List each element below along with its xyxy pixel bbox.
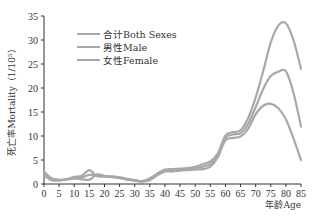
x-tick-label: 40 — [160, 188, 170, 199]
series-line-male — [44, 22, 301, 181]
y-tick-label: 25 — [28, 59, 38, 70]
x-tick-label: 30 — [130, 188, 140, 199]
y-axis-title: 死亡率Mortality（1/10⁵） — [6, 44, 17, 155]
x-tick-label: 35 — [145, 188, 155, 199]
y-tick-label: 30 — [28, 35, 38, 46]
legend: 合计Both Sexes男性Male女性Female — [77, 29, 177, 66]
y-tick-label: 0 — [33, 179, 38, 190]
x-tick-label: 25 — [115, 188, 125, 199]
x-tick-label: 80 — [281, 188, 291, 199]
x-tick-label: 70 — [251, 188, 261, 199]
y-tick-label: 5 — [33, 155, 38, 166]
series-line-both-sexes — [44, 70, 301, 182]
y-tick-label: 10 — [28, 131, 38, 142]
y-axis-label: 死亡率Mortality（1/10⁵） — [6, 44, 17, 155]
x-tick-label: 5 — [57, 188, 62, 199]
x-tick-label: 55 — [205, 188, 215, 199]
series-lines — [44, 22, 301, 182]
x-tick-label: 75 — [266, 188, 276, 199]
x-tick-label: 60 — [220, 188, 230, 199]
x-tick-label: 45 — [175, 188, 185, 199]
y-tick-label: 20 — [28, 83, 38, 94]
x-tick-label: 65 — [236, 188, 246, 199]
x-tick-label: 20 — [99, 188, 109, 199]
legend-label: 女性Female — [103, 55, 158, 66]
x-tick-label: 85 — [296, 188, 306, 199]
x-tick-label: 50 — [190, 188, 200, 199]
x-tick-label: 15 — [84, 188, 94, 199]
mortality-line-chart: 死亡率Mortality（1/10⁵） 05101520253035051015… — [0, 0, 313, 216]
legend-label: 男性Male — [103, 42, 147, 53]
y-tick-label: 15 — [28, 107, 38, 118]
legend-label: 合计Both Sexes — [103, 29, 177, 40]
y-tick-label: 35 — [28, 11, 38, 22]
x-axis-title: 年龄Age — [265, 199, 301, 210]
x-tick-label: 10 — [69, 188, 79, 199]
x-tick-label: 0 — [42, 188, 47, 199]
